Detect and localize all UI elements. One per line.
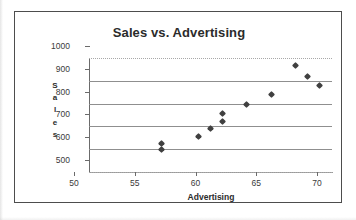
chart-screenshot: Sales vs. Advertising S a l e s Advertis… — [0, 0, 356, 220]
x-axis-tick-60 — [196, 172, 197, 176]
y-axis-tick-700 — [85, 114, 90, 115]
gridline-y-900 — [89, 81, 332, 82]
y-axis-tick-label: 600 — [40, 132, 70, 142]
chart-frame: Sales vs. Advertising S a l e s Advertis… — [14, 11, 342, 203]
y-axis-tick-600 — [85, 137, 90, 138]
y-axis-tick-500 — [85, 160, 90, 161]
page-edge-shadow-bottom — [0, 217, 356, 220]
data-point — [268, 91, 275, 98]
gridline-y-600 — [89, 149, 332, 150]
x-axis-tick-50 — [74, 172, 75, 176]
plot-area — [89, 58, 332, 172]
x-axis-tick-label: 55 — [122, 178, 148, 188]
gridline-y-800 — [89, 104, 332, 105]
y-axis-tick-label: 700 — [40, 109, 70, 119]
data-point — [158, 140, 165, 147]
x-axis-tick-55 — [135, 172, 136, 176]
x-axis-tick-label: 70 — [304, 178, 330, 188]
y-axis-tick-1000 — [85, 46, 90, 47]
y-axis-tick-900 — [85, 69, 90, 70]
y-axis-tick-label: 900 — [40, 64, 70, 74]
x-axis-tick-label: 60 — [183, 178, 209, 188]
chart-title: Sales vs. Advertising — [15, 25, 343, 40]
page-edge-shadow-left — [0, 0, 3, 220]
gridline-y-1000 — [89, 58, 332, 59]
x-axis-title: Advertising — [89, 192, 333, 202]
x-axis-tick-label: 50 — [61, 178, 87, 188]
x-axis-tick-65 — [256, 172, 257, 176]
data-point — [316, 82, 323, 89]
data-point — [304, 73, 311, 80]
data-point — [219, 110, 226, 117]
y-axis-tick-800 — [85, 92, 90, 93]
gridline-y-500 — [89, 172, 332, 173]
x-axis-tick-70 — [317, 172, 318, 176]
y-axis-tick-label: 800 — [40, 87, 70, 97]
data-point — [219, 118, 226, 125]
x-axis-tick-label: 65 — [243, 178, 269, 188]
data-point — [292, 62, 299, 69]
y-axis-tick-label: 1000 — [40, 41, 70, 51]
data-point — [243, 101, 250, 108]
data-point — [195, 133, 202, 140]
data-point — [158, 146, 165, 153]
y-axis-tick-label: 500 — [40, 155, 70, 165]
